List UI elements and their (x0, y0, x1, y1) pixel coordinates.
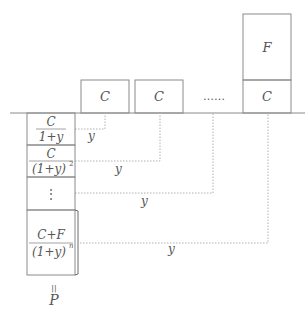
discount-path-4 (80, 113, 268, 243)
bond-pricing-diagram: C C …… F C y y y y C 1+y C (1+y) 2 ⋮ (0, 0, 308, 313)
pv4-numerator: C+F (37, 228, 65, 242)
discount-paths (75, 113, 268, 243)
pv2-denominator: (1+y) (32, 162, 66, 176)
cash-flow-label: C (100, 89, 110, 104)
cash-flow-box-2: C (135, 80, 183, 113)
pv2-exponent: 2 (69, 160, 73, 168)
discount-rate-label: y (140, 194, 148, 208)
discount-path-3 (75, 113, 213, 193)
ellipsis: …… (203, 90, 225, 103)
face-value-label: F (261, 40, 272, 55)
cash-flow-box-1: C (81, 80, 129, 113)
pv4-denominator: (1+y) (32, 245, 66, 259)
pv4-exponent: n (69, 242, 74, 250)
pv2-numerator: C (46, 147, 55, 161)
pv1-numerator: C (46, 115, 55, 129)
final-cash-flow-box: F C (243, 14, 291, 113)
present-value-column: C 1+y C (1+y) 2 ⋮ C+F (1+y) n (27, 113, 78, 275)
cash-flow-label: C (262, 89, 272, 104)
vdots: ⋮ (45, 187, 57, 201)
cash-flow-label: C (154, 89, 164, 104)
discount-rate-label: y (87, 129, 95, 143)
discount-path-1 (75, 113, 105, 129)
discount-rate-label: y (167, 242, 175, 256)
pv1-denominator: 1+y (39, 130, 64, 144)
discount-rate-label: y (114, 162, 122, 176)
price-label: P (48, 292, 59, 308)
